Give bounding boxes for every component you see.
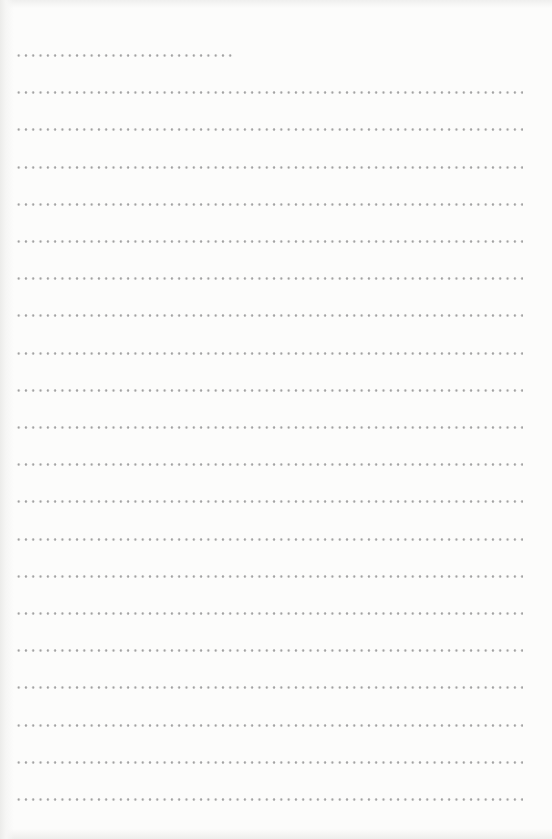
dotted-line <box>15 649 523 652</box>
dotted-line <box>15 128 523 131</box>
dotted-line <box>15 203 523 206</box>
dotted-line <box>15 686 523 689</box>
dotted-line <box>15 389 523 392</box>
dotted-line <box>15 277 523 280</box>
dotted-line <box>15 314 523 317</box>
dotted-line <box>15 724 523 727</box>
dotted-line <box>15 463 523 466</box>
dotted-line <box>15 166 523 169</box>
dotted-line <box>15 538 523 541</box>
dotted-line <box>15 91 523 94</box>
dotted-line <box>15 426 523 429</box>
dotted-line-short <box>15 54 233 57</box>
dotted-line <box>15 352 523 355</box>
dotted-line <box>15 500 523 503</box>
dotted-line <box>15 240 523 243</box>
dotted-line <box>15 612 523 615</box>
dotted-line <box>15 798 523 801</box>
dotted-line <box>15 761 523 764</box>
dotted-line <box>15 575 523 578</box>
dotted-writing-paper <box>0 0 552 839</box>
